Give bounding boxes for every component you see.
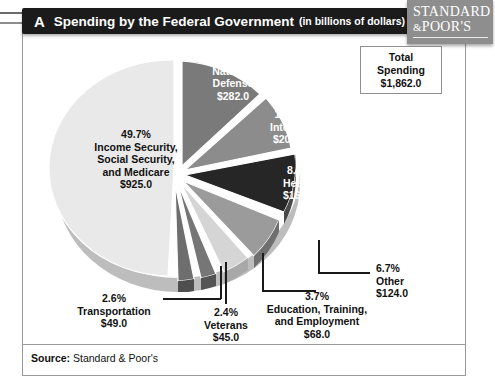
leader-line-transportation-vertical [220, 266, 222, 299]
label-education: 3.7% Education, Training, and Employment… [252, 290, 382, 340]
label-transportation-name: Transportation [58, 305, 170, 318]
label-health-pct: 8.8% [262, 164, 336, 177]
label-national-defense: 15.1% National Defense $282.0 [188, 52, 278, 102]
label-veterans-pct: 2.4% [194, 306, 258, 319]
leader-line-veterans-vertical [225, 262, 227, 304]
label-interest-value: $206.0 [247, 133, 331, 146]
slice-transportation-depth [178, 279, 194, 292]
label-income-security-value: $925.0 [58, 178, 214, 191]
source-value: Standard & Poor's [73, 352, 158, 364]
logo-poors-text: POOR'S [422, 19, 471, 34]
source-label: Source: [31, 352, 70, 364]
label-transportation-pct: 2.6% [58, 292, 170, 305]
label-health-value: $163.0 [262, 189, 336, 202]
total-spending-value: $1,862.0 [381, 77, 422, 90]
standard-and-poors-logo: STANDARD &POOR'S [407, 0, 493, 44]
label-education-pct: 3.7% [252, 290, 382, 303]
leader-line-other-vertical [318, 240, 320, 273]
label-other-pct: 6.7% [376, 262, 448, 275]
label-interest-name: Interest [247, 121, 331, 134]
label-national-defense-name1: National [188, 65, 278, 78]
label-national-defense-value: $282.0 [188, 90, 278, 103]
label-veterans-name: Veterans [194, 319, 258, 332]
figure-badge-letter: A [30, 13, 54, 30]
label-veterans: 2.4% Veterans $45.0 [194, 306, 258, 344]
logo-line-poors: &POOR'S [413, 19, 488, 35]
label-income-security-name1: Income Security, [58, 141, 214, 154]
label-national-defense-name2: Defense [188, 77, 278, 90]
total-spending-line2: Spending [377, 64, 425, 77]
label-education-name2: and Employment [252, 315, 382, 328]
label-other-name: Other [376, 275, 448, 288]
logo-ampersand: & [413, 21, 422, 33]
label-income-security-name3: and Medicare [58, 166, 214, 179]
figure-title: Spending by the Federal Government [54, 14, 294, 29]
label-veterans-value: $45.0 [194, 331, 258, 344]
logo-line-standard: STANDARD [413, 4, 488, 19]
total-spending-box: Total Spending $1,862.0 [360, 46, 442, 94]
leader-line-transportation-horizontal [163, 298, 221, 300]
label-national-defense-pct: 15.1% [188, 52, 278, 65]
source-divider [23, 344, 465, 345]
label-income-security-name2: Social Security, [58, 153, 214, 166]
leader-line-other-horizontal [318, 272, 370, 274]
label-education-value: $68.0 [252, 328, 382, 341]
label-interest: 11.0% Interest $206.0 [247, 108, 331, 146]
figure-subtitle: (in billions of dollars) [299, 15, 405, 27]
total-spending-line1: Total [389, 51, 413, 64]
figure-header-bar: A Spending by the Federal Government (in… [22, 8, 442, 34]
label-health: 8.8% Health $163.0 [262, 164, 336, 202]
label-health-name: Health [262, 177, 336, 190]
label-interest-pct: 11.0% [247, 108, 331, 121]
label-other-value: $124.0 [376, 287, 448, 300]
leader-line-education-vertical [262, 253, 264, 291]
label-transportation: 2.6% Transportation $49.0 [58, 292, 170, 330]
logo-underline [413, 37, 488, 38]
label-income-security-pct: 49.7% [58, 128, 214, 141]
label-transportation-value: $49.0 [58, 317, 170, 330]
label-education-name1: Education, Training, [252, 303, 382, 316]
label-income-security: 49.7% Income Security, Social Security, … [58, 128, 214, 191]
source-line: Source: Standard & Poor's [31, 352, 158, 364]
label-other: 6.7% Other $124.0 [376, 262, 448, 300]
figure-root: A Spending by the Federal Government (in… [0, 0, 495, 388]
